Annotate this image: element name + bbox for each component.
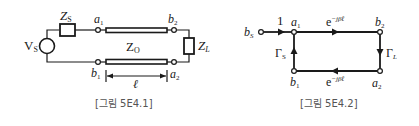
arrow-bottom-branch-icon	[331, 68, 338, 75]
a1-label: a1	[94, 12, 104, 27]
figure-2-caption: [그림 5E4.2]	[300, 98, 358, 109]
bottom-branch-label: e−jβℓ	[326, 75, 344, 89]
a1-node-label: a1	[291, 15, 301, 30]
figure-1-labels: VS ZS a1 b2 ZO ZL b1 a2 ℓ [그림 5E4.1]	[24, 8, 210, 109]
terminal-b1	[96, 60, 101, 65]
top-branch-label: e−jβℓ	[326, 15, 344, 29]
right-wire-top	[177, 30, 190, 38]
source-impedance-box	[60, 24, 75, 36]
length-arrow-left-icon	[107, 74, 113, 79]
node-b1	[292, 69, 297, 74]
b2-node-label: b2	[375, 15, 385, 30]
arrow-unity-icon	[278, 29, 285, 36]
diagram-canvas: VS ZS a1 b2 ZO ZL b1 a2 ℓ [그림 5E4.1] bS …	[0, 0, 419, 126]
node-b2	[378, 30, 383, 35]
load-impedance-label: ZL	[198, 38, 210, 54]
arrow-gamma-s-icon	[291, 47, 298, 54]
b2-label: b2	[168, 12, 178, 27]
load-impedance-box	[184, 38, 194, 54]
node-a2	[378, 69, 383, 74]
terminal-a2	[172, 60, 177, 65]
b1-label: b1	[91, 66, 101, 81]
source-impedance-label: ZS	[60, 8, 72, 24]
terminal-b2	[172, 28, 177, 33]
bs-label: bS	[244, 25, 254, 40]
arrow-gamma-l-icon	[377, 49, 384, 56]
length-arrow-right-icon	[160, 74, 166, 79]
figure-1-caption: [그림 5E4.1]	[95, 98, 153, 109]
line-impedance-label: ZO	[126, 39, 140, 55]
terminal-a1	[96, 28, 101, 33]
gamma-s-label: ΓS	[275, 46, 286, 61]
gamma-l-label: ΓL	[386, 46, 397, 61]
transmission-line-bottom	[106, 60, 167, 65]
length-label: ℓ	[133, 77, 138, 91]
source-label: VS	[24, 38, 38, 54]
arrow-top-branch-icon	[332, 29, 339, 36]
right-wire-bottom	[177, 54, 190, 62]
node-a1	[292, 30, 297, 35]
b1-node-label: b1	[290, 75, 300, 90]
left-wire-top	[47, 30, 59, 39]
a2-label: a2	[170, 67, 180, 82]
transmission-line-top	[106, 28, 167, 33]
a2-node-label: a2	[372, 76, 382, 91]
figure-2-labels: bS 1 a1 e−jβℓ b2 ΓL ΓS b1 e−jβℓ a2 [그림 5…	[244, 13, 397, 109]
node-bs	[259, 30, 264, 35]
voltage-source-icon	[40, 39, 55, 54]
unity-gain-label: 1	[277, 13, 284, 28]
left-wire-bottom	[47, 53, 95, 62]
